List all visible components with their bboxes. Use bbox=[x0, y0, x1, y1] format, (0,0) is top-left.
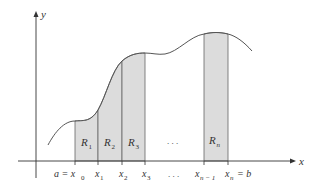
svg-text:n: n bbox=[230, 174, 234, 182]
tick-label-xn: x n = b bbox=[224, 168, 251, 182]
ellipsis-axis: . . . bbox=[168, 169, 179, 179]
svg-text:3: 3 bbox=[136, 143, 140, 151]
svg-text:1: 1 bbox=[89, 143, 93, 151]
svg-text:R: R bbox=[208, 134, 216, 146]
svg-text:R: R bbox=[127, 136, 135, 148]
y-axis-label: y bbox=[40, 8, 46, 20]
svg-text:3: 3 bbox=[147, 174, 151, 182]
x-ticks bbox=[75, 161, 228, 165]
x-axis-label: x bbox=[298, 155, 304, 167]
svg-text:n: n bbox=[217, 141, 221, 149]
svg-text:R: R bbox=[80, 136, 88, 148]
shaded-strips bbox=[75, 33, 228, 162]
svg-text:a = x: a = x bbox=[54, 168, 76, 179]
riemann-sum-diagram: y x R 1 R 2 R 3 R n . . . a = x 0 x 1 x … bbox=[0, 0, 316, 191]
tick-label-x0: a = x 0 bbox=[54, 168, 85, 182]
svg-text:2: 2 bbox=[124, 174, 128, 182]
svg-text:R: R bbox=[103, 136, 111, 148]
x-axis-arrow-icon bbox=[290, 159, 296, 164]
tick-label-xn-1: x n − 1 bbox=[194, 168, 215, 182]
tick-label-x2: x 2 bbox=[118, 168, 128, 182]
svg-text:1: 1 bbox=[100, 174, 104, 182]
svg-text:0: 0 bbox=[81, 174, 85, 182]
svg-text:n − 1: n − 1 bbox=[200, 174, 215, 182]
tick-label-x1: x 1 bbox=[94, 168, 104, 182]
svg-text:= b: = b bbox=[237, 168, 251, 179]
svg-text:2: 2 bbox=[112, 143, 116, 151]
tick-label-x3: x 3 bbox=[141, 168, 151, 182]
ellipsis-middle: . . . bbox=[167, 136, 178, 146]
y-axis-arrow-icon bbox=[34, 11, 39, 17]
